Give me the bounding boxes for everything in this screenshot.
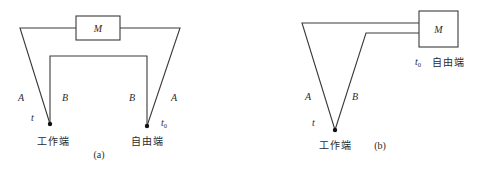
wire-a-outer-right — [120, 28, 180, 126]
meter-label: M — [433, 24, 443, 35]
wire-b — [335, 33, 419, 130]
wire-a-outer-left — [20, 28, 76, 124]
wire-b-inner — [50, 56, 147, 126]
working-junction-dot — [333, 128, 337, 132]
hot-temp-label: t — [31, 112, 34, 123]
figure-b: M A B t t0 自由端 工作端 (b) — [302, 11, 465, 152]
figure-a: M A B B A t t0 工作端 自由端 (a) — [17, 16, 180, 161]
cold-temp-label: t0 — [161, 117, 167, 129]
working-junction-dot — [48, 122, 52, 126]
label-a-right: A — [170, 92, 178, 103]
caption-a: (a) — [93, 149, 104, 161]
free-junction-dot — [145, 124, 149, 128]
cold-temp-label: t0 — [415, 56, 421, 68]
caption-b: (b) — [374, 140, 386, 152]
label-b: B — [352, 91, 358, 102]
free-end-label: 自由端 — [131, 135, 164, 147]
label-b-left: B — [62, 92, 68, 103]
label-a: A — [304, 91, 312, 102]
hot-temp-label: t — [312, 117, 315, 128]
label-a-left: A — [17, 92, 25, 103]
free-end-label: 自由端 — [432, 56, 465, 68]
thermocouple-diagrams: M A B B A t t0 工作端 自由端 (a) M A B t — [0, 0, 482, 169]
label-b-right: B — [129, 92, 135, 103]
working-end-label: 工作端 — [319, 139, 352, 151]
working-end-label: 工作端 — [37, 135, 70, 147]
wire-a — [302, 23, 419, 130]
meter-label: M — [93, 23, 103, 34]
